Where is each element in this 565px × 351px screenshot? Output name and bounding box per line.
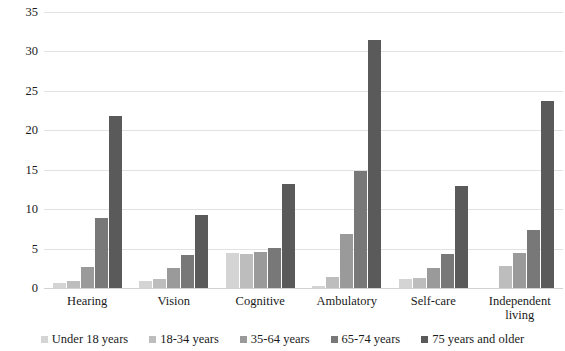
legend-item[interactable]: 18-34 years (149, 333, 219, 346)
bar (326, 277, 339, 288)
bar (226, 253, 239, 288)
bar (268, 248, 281, 288)
x-axis-tick-label: Cognitive (217, 290, 304, 326)
legend-swatch-icon (331, 336, 338, 343)
legend-label: 18-34 years (160, 333, 219, 346)
bar (399, 279, 412, 288)
x-axis: HearingVisionCognitiveAmbulatorySelf-car… (44, 290, 563, 326)
x-axis-tick-label: Independent living (477, 290, 564, 326)
bar-groups (44, 12, 563, 288)
bar-group (304, 12, 391, 288)
bar (541, 101, 554, 288)
y-axis: 35302520151050 (0, 0, 44, 292)
bar (254, 252, 267, 288)
legend-swatch-icon (149, 336, 156, 343)
axis-baseline (44, 288, 563, 289)
bar (499, 266, 512, 288)
chart-legend: Under 18 years18-34 years35-64 years65-7… (0, 330, 565, 348)
legend-label: Under 18 years (52, 333, 128, 346)
bar (527, 230, 540, 288)
bar (67, 281, 80, 288)
bar-group (217, 12, 304, 288)
x-axis-tick-label: Ambulatory (304, 290, 391, 326)
bar (513, 253, 526, 288)
x-axis-tick-label: Vision (131, 290, 218, 326)
y-axis-tick-label: 10 (26, 203, 39, 216)
bar (455, 186, 468, 288)
legend-label: 65-74 years (342, 333, 401, 346)
bar (282, 184, 295, 288)
bar (109, 116, 122, 288)
bar (167, 268, 180, 288)
y-axis-tick-label: 30 (26, 45, 39, 58)
y-axis-tick-label: 0 (32, 282, 38, 295)
y-axis-tick-label: 5 (32, 242, 38, 255)
bar-group (390, 12, 477, 288)
bar (139, 281, 152, 288)
plot-area (44, 12, 563, 288)
y-axis-tick-label: 15 (26, 163, 39, 176)
bar (153, 279, 166, 288)
bar (195, 215, 208, 288)
legend-swatch-icon (421, 336, 428, 343)
bar (53, 283, 66, 288)
legend-label: 35-64 years (251, 333, 310, 346)
x-axis-tick-label: Self-care (390, 290, 477, 326)
bar (240, 254, 253, 288)
legend-item[interactable]: Under 18 years (41, 333, 128, 346)
bar-group (131, 12, 218, 288)
bar (81, 267, 94, 288)
bar (181, 255, 194, 288)
bar-group (477, 12, 564, 288)
bar (368, 40, 381, 288)
y-axis-tick-label: 20 (26, 124, 39, 137)
bar (340, 234, 353, 288)
legend-label: 75 years and older (432, 333, 524, 346)
legend-item[interactable]: 35-64 years (240, 333, 310, 346)
bar (441, 254, 454, 288)
bar (95, 218, 108, 288)
legend-swatch-icon (240, 336, 247, 343)
bar (312, 286, 325, 288)
bar-chart: 35302520151050 HearingVisionCognitiveAmb… (0, 0, 565, 351)
x-axis-tick-label: Hearing (44, 290, 131, 326)
bar (413, 278, 426, 288)
bar-group (44, 12, 131, 288)
y-axis-tick-label: 25 (26, 85, 39, 98)
bar (354, 171, 367, 288)
legend-swatch-icon (41, 336, 48, 343)
y-axis-tick-label: 35 (26, 6, 39, 19)
legend-item[interactable]: 65-74 years (331, 333, 401, 346)
bar (427, 268, 440, 289)
legend-item[interactable]: 75 years and older (421, 333, 524, 346)
